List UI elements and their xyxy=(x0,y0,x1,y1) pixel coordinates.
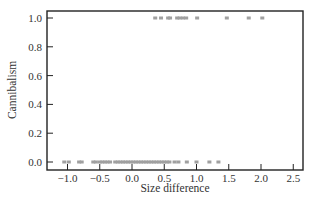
data-points xyxy=(62,17,264,164)
y-tick-label: 0.2 xyxy=(28,127,42,139)
data-point xyxy=(247,17,251,20)
y-axis-ticks: 0.00.20.40.60.81.0 xyxy=(28,12,53,168)
data-point xyxy=(225,17,229,20)
data-point xyxy=(173,161,177,164)
x-tick-label: 2.5 xyxy=(286,172,300,184)
data-point xyxy=(184,17,188,20)
data-point xyxy=(176,161,180,164)
y-tick-label: 1.0 xyxy=(28,12,42,24)
y-tick-label: 0.4 xyxy=(28,98,42,110)
scatter-chart: −1.0−0.50.00.51.01.52.02.5 0.00.20.40.60… xyxy=(0,0,315,201)
x-axis-label: Size difference xyxy=(140,182,209,194)
data-point xyxy=(94,161,98,164)
data-point xyxy=(216,161,220,164)
data-point xyxy=(260,17,264,20)
y-axis-label: Cannibalism xyxy=(6,61,18,119)
data-point xyxy=(67,161,71,164)
x-tick-label: 2.0 xyxy=(254,172,268,184)
y-tick-label: 0.0 xyxy=(28,156,42,168)
data-point xyxy=(168,17,172,20)
y-tick-label: 0.8 xyxy=(28,41,42,53)
data-point xyxy=(195,161,199,164)
x-tick-label: 0.0 xyxy=(125,172,139,184)
data-point xyxy=(207,161,211,164)
x-tick-label: 1.5 xyxy=(222,172,236,184)
data-point xyxy=(108,161,112,164)
x-axis-ticks: −1.0−0.50.00.51.01.52.02.5 xyxy=(58,164,301,184)
data-point xyxy=(195,17,199,20)
data-point xyxy=(62,161,66,164)
data-point xyxy=(159,17,163,20)
data-point xyxy=(185,161,189,164)
data-point xyxy=(80,161,84,164)
x-tick-label: −0.5 xyxy=(90,172,110,184)
plot-frame xyxy=(47,11,303,170)
data-point xyxy=(153,17,157,20)
y-tick-label: 0.6 xyxy=(28,70,42,82)
x-tick-label: −1.0 xyxy=(58,172,78,184)
data-point xyxy=(167,161,171,164)
